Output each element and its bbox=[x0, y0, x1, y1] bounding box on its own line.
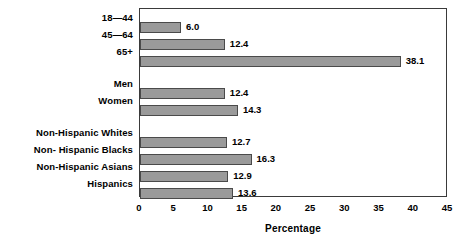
bar-hispanics bbox=[140, 188, 233, 199]
data-label-non-hispanic-whites: 12.7 bbox=[232, 137, 251, 147]
x-tick-15: 15 bbox=[236, 203, 247, 213]
bar-65-plus bbox=[140, 56, 401, 67]
x-tick-40: 40 bbox=[407, 203, 418, 213]
data-label-non-hispanic-asians: 12.9 bbox=[233, 171, 252, 181]
bar-men bbox=[140, 88, 225, 99]
category-label-column: 18—44 45—64 65+ Men Women Non-Hispanic W… bbox=[0, 0, 133, 247]
data-label-45-64: 12.4 bbox=[230, 39, 249, 49]
category-label-non-hispanic-blacks: Non- Hispanic Blacks bbox=[0, 145, 133, 155]
data-label-hispanics: 13.6 bbox=[238, 188, 257, 198]
category-label-men: Men bbox=[0, 79, 133, 89]
bar-18-44 bbox=[140, 22, 181, 33]
x-tick-20: 20 bbox=[271, 203, 282, 213]
x-tick-5: 5 bbox=[171, 203, 176, 213]
data-label-18-44: 6.0 bbox=[186, 22, 199, 32]
x-tick-25: 25 bbox=[305, 203, 316, 213]
x-axis-title: Percentage bbox=[139, 223, 447, 234]
category-label-non-hispanic-whites: Non-Hispanic Whites bbox=[0, 128, 133, 138]
x-tick-45: 45 bbox=[442, 203, 453, 213]
category-label-hispanics: Hispanics bbox=[0, 179, 133, 189]
data-label-men: 12.4 bbox=[230, 88, 249, 98]
data-label-women: 14.3 bbox=[243, 105, 262, 115]
bar-women bbox=[140, 105, 238, 116]
bar-non-hispanic-asians bbox=[140, 171, 228, 182]
category-label-non-hispanic-asians: Non-Hispanic Asians bbox=[0, 162, 133, 172]
category-label-18-44: 18—44 bbox=[0, 13, 133, 23]
x-tick-35: 35 bbox=[373, 203, 384, 213]
plot-area bbox=[139, 8, 447, 197]
bar-45-64 bbox=[140, 39, 225, 50]
bar-chart: 18—44 45—64 65+ Men Women Non-Hispanic W… bbox=[0, 0, 463, 247]
x-tick-10: 10 bbox=[202, 203, 213, 213]
data-label-non-hispanic-blacks: 16.3 bbox=[257, 154, 276, 164]
data-label-65-plus: 38.1 bbox=[406, 56, 425, 66]
category-label-45-64: 45—64 bbox=[0, 30, 133, 40]
category-label-women: Women bbox=[0, 96, 133, 106]
bar-non-hispanic-whites bbox=[140, 137, 227, 148]
category-label-65-plus: 65+ bbox=[0, 47, 133, 57]
x-tick-0: 0 bbox=[136, 203, 141, 213]
bar-non-hispanic-blacks bbox=[140, 154, 252, 165]
x-tick-30: 30 bbox=[339, 203, 350, 213]
